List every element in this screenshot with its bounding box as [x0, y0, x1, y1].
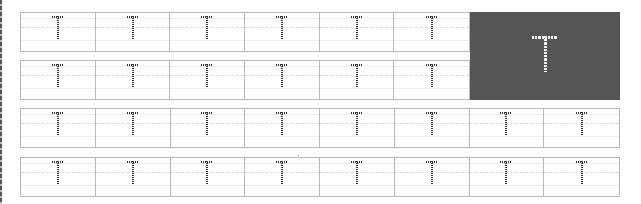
- letter-stem: [132, 161, 134, 185]
- guide-line: [96, 88, 170, 89]
- model-letter-panel: [470, 12, 620, 100]
- dotted-letter-t: [52, 64, 64, 88]
- model-letter-t: [532, 36, 558, 72]
- guide-line: [21, 88, 95, 89]
- dotted-letter-t: [426, 112, 438, 136]
- tracing-cell[interactable]: [96, 158, 171, 196]
- dotted-letter-t: [276, 161, 288, 185]
- tracing-cell[interactable]: [245, 158, 320, 196]
- tracing-cell[interactable]: [96, 61, 171, 99]
- tracing-cell[interactable]: [320, 13, 395, 51]
- tracing-cell[interactable]: [21, 61, 96, 99]
- dotted-letter-t: [351, 64, 363, 88]
- tracing-cell[interactable]: [320, 61, 395, 99]
- tracing-cell[interactable]: [395, 109, 470, 147]
- dotted-letter-t: [276, 112, 288, 136]
- tracing-cell[interactable]: [21, 158, 96, 196]
- dotted-letter-t: [500, 112, 512, 136]
- tracing-cell[interactable]: [21, 109, 96, 147]
- dotted-letter-t: [201, 112, 213, 136]
- tracing-cell[interactable]: [544, 109, 619, 147]
- guide-line: [96, 136, 170, 137]
- dotted-letter-t: [52, 16, 64, 40]
- letter-stem: [581, 112, 583, 136]
- letter-stem: [581, 161, 583, 185]
- tracing-cell[interactable]: [320, 158, 395, 196]
- guide-line: [21, 185, 95, 186]
- guide-line: [394, 88, 469, 89]
- letter-stem: [431, 64, 433, 88]
- tracing-cell[interactable]: [245, 109, 320, 147]
- guide-line: [470, 136, 544, 137]
- letter-stem: [57, 112, 59, 136]
- guide-line: [245, 185, 319, 186]
- dotted-letter-t: [127, 112, 139, 136]
- letter-stem: [57, 16, 59, 40]
- letter-stem: [132, 64, 134, 88]
- tracing-cell[interactable]: [21, 13, 96, 51]
- guide-line: [395, 136, 469, 137]
- letter-stem: [431, 16, 433, 40]
- tracing-cell[interactable]: [544, 158, 619, 196]
- page-edge: [0, 0, 2, 204]
- guide-line: [171, 185, 245, 186]
- guide-line: [171, 136, 245, 137]
- dotted-letter-t: [127, 64, 139, 88]
- letter-stem: [281, 161, 283, 185]
- guide-line: [470, 185, 544, 186]
- dotted-letter-t: [276, 64, 288, 88]
- tracing-cell[interactable]: [170, 61, 245, 99]
- guide-line: [21, 136, 95, 137]
- tracing-cell[interactable]: [394, 13, 469, 51]
- letter-stem: [57, 161, 59, 185]
- tracing-cell[interactable]: [170, 13, 245, 51]
- letter-stem: [505, 112, 507, 136]
- letter-stem: [132, 16, 134, 40]
- tracing-cell[interactable]: [394, 61, 469, 99]
- letter-stem: [206, 64, 208, 88]
- tracing-cell[interactable]: [245, 61, 320, 99]
- dotted-letter-t: [52, 112, 64, 136]
- tracing-cell[interactable]: [171, 158, 246, 196]
- tracing-row: [20, 60, 470, 100]
- guide-line: [21, 40, 95, 41]
- dotted-letter-t: [276, 16, 288, 40]
- guide-line: [170, 40, 244, 41]
- letter-stem: [431, 161, 433, 185]
- letter-stem: [281, 16, 283, 40]
- stray-mark: [298, 155, 299, 156]
- dotted-letter-t: [201, 16, 213, 40]
- guide-line: [320, 136, 394, 137]
- guide-line: [245, 136, 319, 137]
- letter-stem: [356, 64, 358, 88]
- tracing-row: [20, 108, 620, 148]
- tracing-cell[interactable]: [320, 109, 395, 147]
- tracing-row: [20, 12, 470, 52]
- letter-stem: [356, 16, 358, 40]
- dotted-letter-t: [201, 64, 213, 88]
- tracing-cell[interactable]: [470, 109, 545, 147]
- dotted-letter-t: [426, 161, 438, 185]
- letter-stem: [206, 112, 208, 136]
- guide-line: [320, 40, 394, 41]
- model-letter-stem: [544, 36, 547, 72]
- guide-line: [544, 185, 619, 186]
- guide-line: [394, 40, 469, 41]
- dotted-letter-t: [201, 161, 213, 185]
- tracing-cell[interactable]: [470, 158, 545, 196]
- tracing-cell[interactable]: [171, 109, 246, 147]
- letter-stem: [356, 112, 358, 136]
- dotted-letter-t: [426, 16, 438, 40]
- dotted-letter-t: [426, 64, 438, 88]
- letter-stem: [431, 112, 433, 136]
- tracing-cell[interactable]: [245, 13, 320, 51]
- tracing-cell[interactable]: [96, 109, 171, 147]
- dotted-letter-t: [52, 161, 64, 185]
- letter-stem: [505, 161, 507, 185]
- guide-line: [170, 88, 244, 89]
- dotted-letter-t: [351, 161, 363, 185]
- tracing-cell[interactable]: [96, 13, 171, 51]
- guide-line: [245, 88, 319, 89]
- tracing-cell[interactable]: [395, 158, 470, 196]
- tracing-row: [20, 157, 620, 197]
